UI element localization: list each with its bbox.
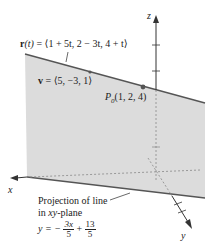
- frac2-den: 5: [85, 230, 96, 239]
- caption-prefix: in: [38, 207, 48, 218]
- y-axis: [172, 196, 188, 222]
- plus-sign: +: [74, 223, 85, 234]
- point-P0-label: P0(1, 2, 4): [105, 92, 146, 105]
- x-axis-label: x: [8, 185, 12, 195]
- z-axis-arrow: [153, 15, 159, 23]
- projection-leader: [110, 193, 130, 200]
- projection-caption-1: Projection of line: [38, 196, 107, 206]
- fraction-13-over-5: 135: [85, 220, 96, 240]
- z-axis-label: z: [147, 11, 151, 21]
- fraction-3x-over-5: 3x5: [63, 220, 74, 240]
- y-axis-arrow: [185, 219, 192, 229]
- point-P0: [141, 85, 146, 90]
- x-axis-arrow: [10, 175, 18, 181]
- v-value: = ⟨5, −3, 1⟩: [43, 75, 92, 86]
- r-rhs: = ⟨1 + 5t, 2 − 3t, 4 + t⟩: [34, 38, 128, 49]
- r-arg: (t): [24, 38, 33, 49]
- y-axis-label: y: [181, 231, 185, 241]
- projection-equation: y = − 3x5 + 135: [38, 220, 96, 240]
- caption-italic: xy: [48, 207, 57, 218]
- direction-point: [88, 70, 91, 73]
- projection-caption-2: in xy-plane: [38, 208, 82, 218]
- p-coords: (1, 2, 4): [115, 91, 147, 102]
- eq-lhs: y = −: [38, 223, 61, 234]
- caption-suffix: -plane: [57, 207, 82, 218]
- line-equation-label: r(t) = ⟨1 + 5t, 2 − 3t, 4 + t⟩: [20, 39, 128, 49]
- frac1-den: 5: [63, 230, 74, 239]
- equation-leader: [66, 52, 68, 62]
- direction-vector-label: v = ⟨5, −3, 1⟩: [38, 76, 92, 86]
